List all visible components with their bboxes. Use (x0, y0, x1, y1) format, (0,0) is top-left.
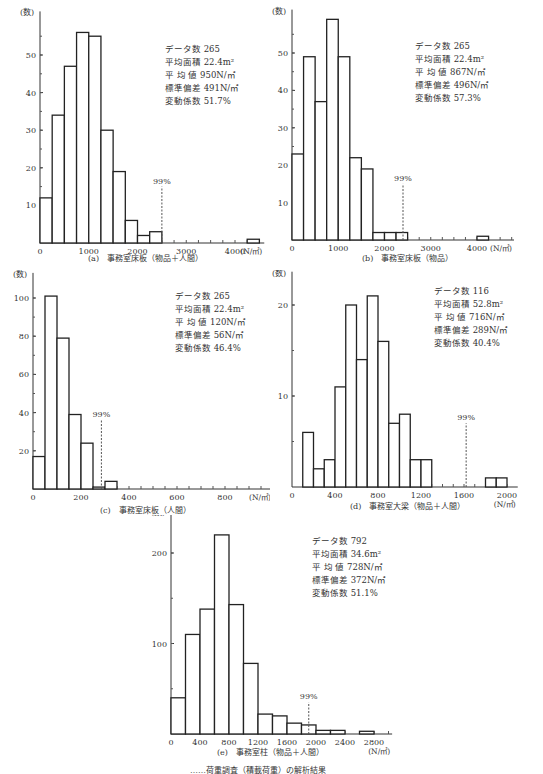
histogram-bar (77, 32, 89, 243)
stat-count: データ数 792 (312, 535, 386, 548)
histogram-bar (247, 239, 259, 243)
histogram-bar (244, 663, 259, 734)
stat-mean: 平 均 値 120N/㎡ (175, 316, 246, 329)
svg-text:4000: 4000 (467, 244, 487, 253)
histogram-bar (324, 460, 335, 487)
svg-text:200: 200 (152, 549, 167, 558)
svg-text:1200: 1200 (411, 491, 431, 500)
svg-text:200: 200 (73, 493, 88, 502)
stat-area: 平均面積 22.4m² (415, 53, 489, 66)
histogram-bar (378, 341, 389, 487)
histogram-bar (304, 57, 316, 240)
svg-text:0: 0 (37, 247, 42, 256)
histogram-c: (数)204060801000200400600800(N/㎡)99%データ数 … (0, 270, 270, 520)
stats-box: データ数 265平均面積 22.4m²平 均 値 120N/㎡標準偏差 56N/… (175, 290, 246, 355)
histogram-bar (331, 730, 346, 734)
histogram-bar (396, 233, 408, 240)
histogram-bar (385, 233, 397, 240)
histogram-bar (57, 338, 69, 489)
stat-cv: 変動係数 46.4% (175, 342, 246, 355)
svg-text:20: 20 (278, 301, 288, 310)
svg-text:80: 80 (19, 332, 29, 341)
stat-mean: 平 均 値 716N/㎡ (434, 311, 508, 324)
histogram-bar (486, 478, 497, 487)
histogram-bar (314, 469, 325, 487)
histogram-bar (303, 432, 314, 487)
svg-text:100: 100 (14, 294, 29, 303)
svg-text:20: 20 (278, 161, 288, 170)
figure-caption: ……荷重調査（積載荷重）の解析結果 (190, 764, 326, 774)
histogram-bar (89, 36, 101, 243)
histogram-bar (315, 102, 327, 240)
chart-caption: (b) 事務室床板（物品） (362, 252, 453, 263)
histogram-bar (33, 457, 45, 489)
stat-cv: 変動係数 40.4% (434, 337, 508, 350)
histogram-bar (287, 723, 302, 734)
stats-box: データ数 265平均面積 22.4m²平 均 値 950N/㎡標準偏差 491N… (165, 43, 239, 108)
svg-text:20: 20 (19, 447, 29, 456)
svg-text:1000: 1000 (328, 244, 348, 253)
histogram-bar (316, 730, 331, 734)
percentile-99-label: 99% (153, 177, 171, 186)
svg-text:600: 600 (169, 493, 184, 502)
histogram-bar (64, 66, 76, 243)
histogram-bar (292, 154, 304, 240)
chart-caption: (c) 事務室床板（人間） (100, 504, 191, 515)
stat-area: 平均面積 22.4m² (175, 303, 246, 316)
histogram-bar (360, 731, 375, 734)
histogram-bar (200, 609, 215, 734)
stat-std: 標準偏差 491N/㎡ (165, 82, 239, 95)
svg-text:2000: 2000 (497, 491, 517, 500)
svg-text:40: 40 (278, 86, 288, 95)
svg-text:10: 10 (26, 201, 36, 210)
histogram-bar (125, 220, 137, 243)
x-axis-unit: (N/㎡) (240, 247, 262, 256)
histogram-bar (367, 296, 378, 487)
histogram-bar (150, 232, 162, 243)
x-axis-unit: (N/㎡) (494, 500, 516, 509)
histogram-bar (52, 115, 64, 243)
stat-std: 標準偏差 496N/㎡ (415, 79, 489, 92)
histogram-bar (105, 481, 117, 489)
histogram-bar (138, 235, 150, 243)
y-axis-label: (数) (13, 270, 27, 279)
histogram-bar (338, 57, 350, 240)
svg-text:10: 10 (278, 199, 288, 208)
histogram-b: (数)102030405001000200030004000(N/㎡)99%デー… (270, 0, 543, 262)
stat-area: 平均面積 34.6m² (312, 548, 386, 561)
stat-mean: 平 均 値 950N/㎡ (165, 69, 239, 82)
percentile-99-label: 99% (394, 174, 412, 183)
histogram-bar (186, 634, 201, 734)
histogram-e: (数)100200040080012001600200024002800(N/㎡… (130, 515, 420, 760)
histogram-bar (258, 714, 273, 734)
svg-text:0: 0 (289, 244, 294, 253)
percentile-99-label: 99% (457, 413, 475, 422)
y-axis-label: (数) (272, 270, 286, 278)
stat-cv: 変動係数 51.7% (165, 95, 239, 108)
histogram-bar (40, 198, 52, 243)
stat-count: データ数 265 (165, 43, 239, 56)
histogram-bar (477, 236, 489, 240)
histogram-bar (357, 360, 368, 487)
chart-caption: (d) 事務室大梁（物品＋人間） (350, 500, 465, 511)
chart-caption: (e) 事務室柱（物品＋人間） (217, 746, 324, 757)
histogram-bar (215, 535, 230, 734)
histogram-bar (229, 605, 244, 734)
histogram-bar (327, 19, 339, 240)
stat-area: 平均面積 22.4m² (165, 56, 239, 69)
svg-text:100: 100 (152, 640, 167, 649)
stats-box: データ数 116平均面積 52.8m²平 均 値 716N/㎡標準偏差 289N… (434, 285, 508, 350)
svg-text:800: 800 (217, 493, 232, 502)
stats-box: データ数 265平均面積 22.4m²平 均 値 867N/㎡標準偏差 496N… (415, 40, 489, 105)
chart-plot: (数)102030405001000200030004000(N/㎡)99% (270, 0, 543, 262)
stat-std: 標準偏差 289N/㎡ (434, 324, 508, 337)
svg-text:2800: 2800 (364, 738, 384, 747)
svg-text:60: 60 (19, 370, 29, 379)
histogram-bar (410, 460, 421, 487)
histogram-bar (171, 698, 186, 734)
stat-count: データ数 116 (434, 285, 508, 298)
stat-std: 標準偏差 372N/㎡ (312, 574, 386, 587)
percentile-99-label: 99% (93, 410, 111, 419)
svg-text:2400: 2400 (335, 738, 355, 747)
x-axis-unit: (N/㎡) (490, 244, 512, 253)
